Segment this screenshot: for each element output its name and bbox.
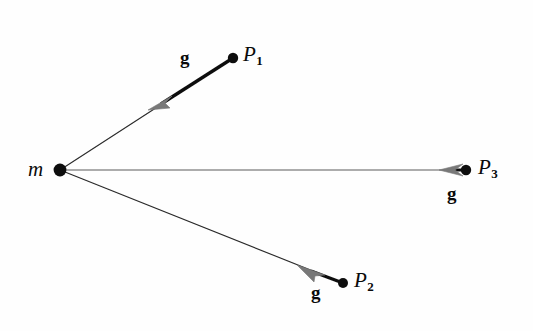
point-dot-p2 xyxy=(338,278,348,288)
label-point-p3: P3 xyxy=(478,157,497,178)
label-point-p3-base: P xyxy=(478,155,491,179)
label-mass-m: m xyxy=(28,159,43,180)
label-vector-g-3: g xyxy=(447,184,457,203)
label-point-p3-subscript: 3 xyxy=(491,166,498,181)
label-point-p1-base: P xyxy=(243,42,256,66)
label-point-p2-subscript: 2 xyxy=(367,279,374,294)
label-vector-g-1: g xyxy=(180,48,190,67)
label-vector-g-2: g xyxy=(311,283,321,302)
label-point-p1: P1 xyxy=(243,44,262,65)
point-dot-p1 xyxy=(228,53,238,63)
label-point-p2: P2 xyxy=(354,270,373,291)
diagram-svg xyxy=(0,0,533,331)
point-dot-p3 xyxy=(461,165,471,175)
figure-canvas: m P1 P2 P3 g g g xyxy=(0,0,533,331)
label-point-p1-subscript: 1 xyxy=(256,53,263,68)
arrowhead-g-2 xyxy=(297,265,325,282)
arrowhead-g-1 xyxy=(148,96,172,110)
label-point-p2-base: P xyxy=(354,268,367,292)
vector-g-1-shaft xyxy=(161,58,233,104)
point-dot-m xyxy=(54,164,67,177)
